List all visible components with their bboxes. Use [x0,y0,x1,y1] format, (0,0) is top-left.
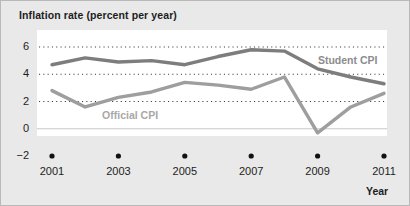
x-axis-tick-dots [49,153,386,158]
x-tick-label: 2003 [95,165,141,177]
y-tick-label: 6 [7,40,29,52]
y-tick-label: 4 [7,67,29,79]
x-axis-title: Year [366,185,388,197]
x-tick-label: 2005 [162,165,208,177]
y-tick-label: 2 [7,95,29,107]
y-tick-label: 0 [7,122,29,134]
x-tick-label: 2007 [228,165,274,177]
series-label-student-cpi: Student CPI [318,54,378,66]
x-tick-label: 2009 [295,165,341,177]
chart-figure: Inflation rate (percent per year) 6420−2… [0,0,410,206]
series-label-official-cpi: Official CPI [102,109,158,121]
x-tick-label: 2011 [361,165,407,177]
y-tick-label: −2 [7,149,29,161]
x-tick-label: 2001 [29,165,75,177]
